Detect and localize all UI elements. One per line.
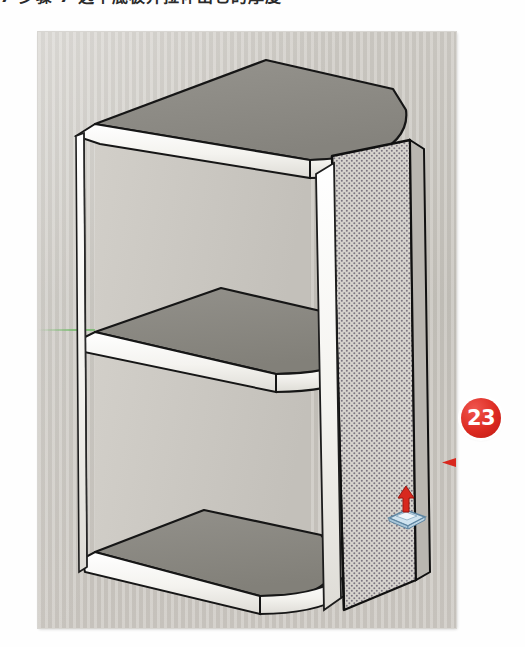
sketchup-cabinet-model[interactable] xyxy=(38,32,456,628)
book-page: 7 步骤 7 选中底板并拉伸出它的厚度 xyxy=(0,0,525,647)
pushpull-up-arrow-icon xyxy=(398,486,414,512)
callout-badge-23: 23 xyxy=(461,398,501,438)
pushpull-face-icon xyxy=(389,510,425,529)
figure-photo xyxy=(38,32,456,628)
page-caption: 7 步骤 7 选中底板并拉伸出它的厚度 xyxy=(0,0,525,8)
left-side-panel[interactable] xyxy=(76,133,87,572)
right-side-panel-selected[interactable] xyxy=(332,140,430,610)
push-pull-tool-cursor xyxy=(383,484,431,534)
callout-arrow-icon xyxy=(442,458,456,467)
